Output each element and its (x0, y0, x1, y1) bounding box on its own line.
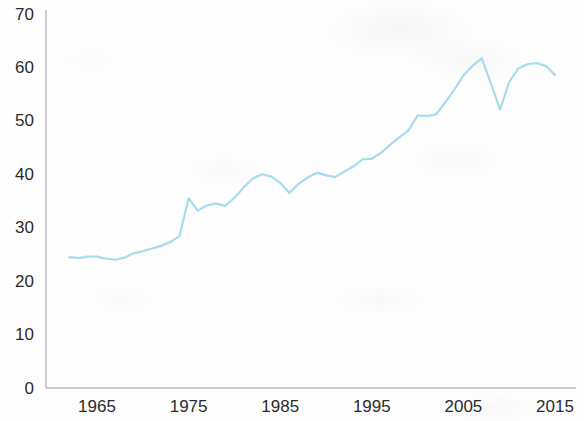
y-axis-tick-10: 10 (15, 326, 34, 343)
y-axis-tick-30: 30 (15, 219, 34, 236)
x-axis-tick-2005: 2005 (438, 398, 488, 415)
y-axis-tick-20: 20 (15, 273, 34, 290)
x-axis-tick-1985: 1985 (255, 398, 305, 415)
x-axis-tick-1965: 1965 (72, 398, 122, 415)
x-axis-tick-2015: 2015 (530, 398, 580, 415)
chart-plot-area (0, 0, 584, 421)
y-axis-tick-0: 0 (25, 380, 34, 397)
y-axis-tick-60: 60 (15, 59, 34, 76)
data-line-value (70, 58, 555, 259)
y-axis-tick-50: 50 (15, 112, 34, 129)
data-series-group (70, 58, 555, 259)
y-axis-tick-40: 40 (15, 166, 34, 183)
x-axis-tick-1975: 1975 (164, 398, 214, 415)
axis-lines (46, 10, 576, 388)
chart-container: 010203040506070 196519751985199520052015 (0, 0, 584, 421)
y-axis-tick-70: 70 (15, 6, 34, 23)
x-axis-tick-1995: 1995 (347, 398, 397, 415)
